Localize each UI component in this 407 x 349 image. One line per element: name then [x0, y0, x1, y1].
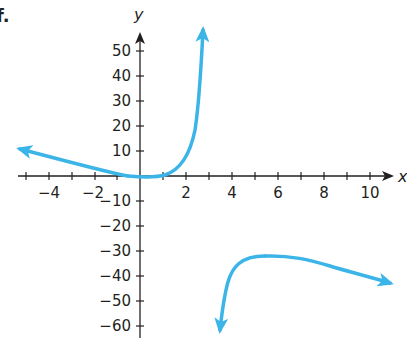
x-tick-labels: −4 −2 2 4 6 8 10	[38, 184, 380, 202]
x-tick-label: 10	[360, 184, 379, 202]
y-tick-label: −20	[99, 217, 131, 235]
x-tick-label: 2	[181, 184, 191, 202]
y-tick-labels: 50 40 30 20 10 −10 −20 −30 −40 −50 −60	[99, 42, 131, 335]
curve-right-branch-right	[265, 256, 390, 283]
graph-canvas: f. −4 −2 2 4 6 8 10	[0, 0, 407, 349]
curve-right-branch-down	[220, 256, 265, 330]
curve-left-branch-rising	[128, 30, 203, 177]
y-tick-label: −40	[99, 267, 131, 285]
x-tick-label: 4	[227, 184, 237, 202]
y-axis-label: y	[133, 5, 144, 24]
x-tick-label: −4	[38, 184, 60, 202]
y-tick-label: −30	[99, 242, 131, 260]
y-tick-label: −10	[99, 192, 131, 210]
y-tick-label: 30	[112, 92, 131, 110]
problem-label: f.	[0, 5, 10, 26]
y-tick-label: 40	[112, 67, 131, 85]
x-tick-label: 6	[273, 184, 283, 202]
y-tick-label: 10	[112, 142, 131, 160]
y-tick-label: −60	[99, 317, 131, 335]
x-axis-label: x	[397, 167, 407, 186]
y-tick-label: 20	[112, 117, 131, 135]
y-tick-label: 50	[112, 42, 131, 60]
x-tick-label: 8	[319, 184, 329, 202]
y-tick-label: −50	[99, 292, 131, 310]
x-axis: −4 −2 2 4 6 8 10 x	[18, 167, 407, 202]
